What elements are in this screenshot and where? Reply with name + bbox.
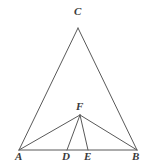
geometry-figure: C F A D E B bbox=[0, 0, 155, 162]
segment-group bbox=[19, 28, 137, 150]
segment-AC bbox=[19, 28, 78, 150]
vertex-label-C: C bbox=[74, 6, 81, 17]
geometry-canvas bbox=[0, 0, 155, 162]
segment-FE bbox=[80, 115, 88, 150]
vertex-label-A: A bbox=[15, 151, 22, 162]
vertex-label-D: D bbox=[62, 151, 70, 162]
segment-AF bbox=[19, 115, 80, 150]
vertex-label-F: F bbox=[76, 101, 83, 112]
vertex-label-B: B bbox=[132, 151, 139, 162]
segment-FD bbox=[67, 115, 80, 150]
vertex-label-E: E bbox=[84, 151, 91, 162]
